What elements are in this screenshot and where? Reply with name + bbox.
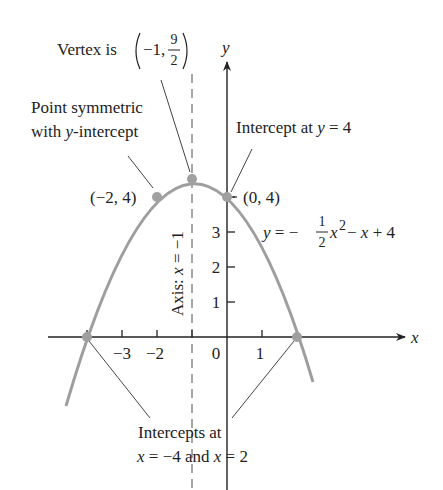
x-intercept-right-point — [292, 332, 302, 342]
y-intercept-annotation: Intercept at y = 4 — [236, 118, 352, 137]
vertex-point — [187, 174, 197, 184]
svg-text:−1,: −1, — [143, 40, 165, 59]
y-intercept-point — [222, 192, 232, 202]
point-neg2-4 — [152, 192, 162, 202]
svg-text:x: x — [329, 223, 338, 242]
parabola-curve — [66, 184, 313, 406]
x-tick-label: 1 — [256, 344, 265, 363]
vertex-annotation: Vertex is −1, 9 2 — [57, 32, 187, 69]
svg-text:− x + 4: − x + 4 — [347, 223, 395, 242]
point-neg2-4-label: (−2, 4) — [90, 188, 136, 207]
svg-text:2: 2 — [319, 235, 326, 250]
svg-text:Intercepts at: Intercepts at — [138, 423, 222, 442]
y-tick-label: 3 — [212, 223, 221, 242]
x-tick-label: −3 — [113, 344, 131, 363]
svg-text:1: 1 — [319, 214, 326, 229]
equation-label: y = − 1 2 x 2 − x + 4 — [261, 214, 395, 250]
x-ticks — [87, 330, 297, 337]
svg-text:Vertex is: Vertex is — [57, 40, 117, 59]
point-0-4-label: (0, 4) — [233, 188, 280, 207]
y-tick-label: 2 — [212, 258, 221, 277]
x-intercept-left-point — [82, 332, 92, 342]
symmetric-point-annotation: Point symmetric with y-intercept — [31, 98, 143, 141]
y-ticks — [227, 197, 235, 302]
svg-text:with y-intercept: with y-intercept — [31, 122, 138, 141]
svg-text:x = −4 and x = 2: x = −4 and x = 2 — [136, 447, 248, 466]
x-tick-label: 0 — [212, 344, 221, 363]
x-axis-label: x — [410, 328, 419, 347]
svg-text:2: 2 — [171, 53, 178, 68]
svg-text:y = −: y = − — [261, 223, 298, 242]
y-tick-label: 1 — [212, 293, 221, 312]
axis-of-symmetry-label: Axis: x = −1 — [168, 231, 187, 316]
y-axis-label: y — [220, 38, 230, 57]
parabola-diagram: −3 −2 0 1 1 2 3 x y Vertex is −1, 9 2 Po… — [0, 0, 443, 490]
svg-text:9: 9 — [171, 32, 178, 47]
svg-text:2: 2 — [339, 218, 346, 233]
svg-text:Point symmetric: Point symmetric — [31, 98, 143, 117]
x-intercepts-annotation: Intercepts at x = −4 and x = 2 — [136, 423, 248, 466]
x-tick-label: −2 — [146, 344, 164, 363]
svg-text:(0, 4): (0, 4) — [243, 188, 280, 207]
